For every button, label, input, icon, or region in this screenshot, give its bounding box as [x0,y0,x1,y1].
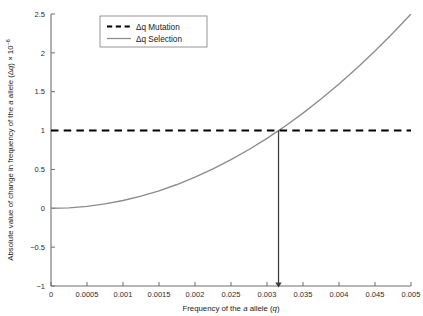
plot-area [51,14,411,286]
x-tick-label: 0.005 [402,290,421,299]
chart-canvas: −1−0.500.511.522.5 00.00050.0010.00150.0… [0,0,423,316]
x-tick-label: 0.004 [330,290,349,299]
y-tick-label: 0.5 [35,165,45,174]
x-tick-label: 0.002 [186,290,205,299]
x-tick-label: 0.001 [114,290,133,299]
y-tick-label: 2 [41,49,45,58]
legend-label-mutation: Δq Mutation [136,23,180,32]
y-tick-label: 1 [41,126,45,135]
y-tick-label: −0.5 [30,243,45,252]
x-tick-label: 0.035 [294,290,313,299]
x-axis-title: Frequency of the a allele (q) [182,304,280,313]
y-tick-label: 0 [41,204,45,213]
y-tick-label: 1.5 [35,87,45,96]
y-tick-label: −1 [36,282,45,291]
x-tick-label: 0.045 [366,290,385,299]
x-tick-label: 0.025 [222,290,241,299]
legend: Δq Mutation Δq Selection [100,16,207,47]
x-tick-label: 0.0015 [148,290,171,299]
x-tick-label: 0.003 [258,290,277,299]
figure-container: −1−0.500.511.522.5 00.00050.0010.00150.0… [0,0,423,316]
y-axis-title: Absolute value of change in frequency of… [5,39,15,260]
x-tick-label: 0.0005 [76,290,99,299]
y-tick-label: 2.5 [35,10,45,19]
x-tick-label: 0 [49,290,53,299]
legend-label-selection: Δq Selection [136,35,182,44]
